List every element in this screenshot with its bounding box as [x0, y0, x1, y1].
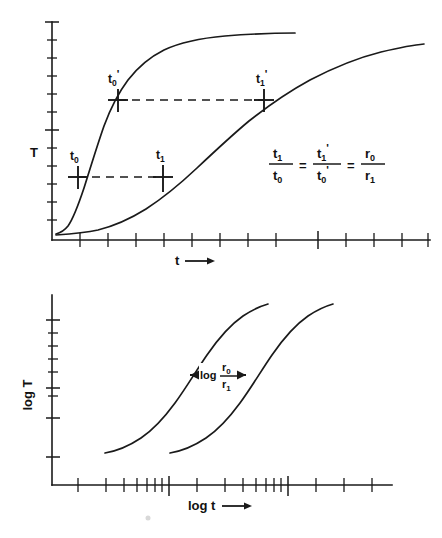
lower-axes	[52, 295, 392, 485]
shift-arrowhead-right	[237, 371, 246, 380]
page-speck	[146, 516, 151, 521]
log-shift-annotation: log r0 r1	[190, 361, 246, 393]
equation-term3-numerator: r0	[365, 146, 375, 163]
upper-chart-panel: t0 t1 t0' t1' T t t1 t0 =	[0, 0, 442, 270]
lower-x-ticks	[78, 476, 372, 496]
upper-curve-fast	[56, 33, 295, 234]
equation-block: t1 t0 = t1' t0' = r0 r1	[269, 142, 385, 185]
lower-x-axis-label-group: log t	[188, 498, 252, 513]
equation-equals-2: =	[347, 158, 355, 173]
label-t0: t0	[70, 149, 79, 165]
equation-term1-numerator: t1	[273, 146, 282, 163]
equation-term3-denominator: r1	[365, 168, 375, 185]
label-t0-prime: t0'	[108, 68, 120, 88]
equation-term2-denominator: t0'	[317, 164, 329, 185]
upper-y-axis-label: T	[30, 145, 38, 160]
lower-curve-left	[105, 304, 268, 453]
marker-t1-prime	[254, 89, 274, 112]
equation-equals-1: =	[299, 158, 307, 173]
lower-curve-right	[170, 304, 333, 453]
x-axis-arrowhead	[207, 258, 215, 265]
figure-root: t0 t1 t0' t1' T t t1 t0 =	[0, 0, 442, 538]
lower-y-ticks	[46, 320, 60, 457]
equation-term2-numerator: t1'	[317, 142, 329, 163]
lower-x-axis-arrowhead	[244, 503, 252, 510]
label-t1: t1	[156, 148, 165, 164]
lower-chart-panel: log r0 r1 log T log t	[0, 270, 442, 538]
marker-t1	[153, 165, 173, 192]
lower-y-axis-label: log T	[20, 379, 35, 410]
annotation-log-prefix: log	[200, 369, 217, 381]
equation-term1-denominator: t0	[273, 168, 282, 185]
label-t1-prime: t1'	[256, 68, 268, 88]
upper-x-axis-label: t	[175, 253, 180, 268]
lower-x-axis-label: log t	[188, 498, 216, 513]
upper-x-axis-label-group: t	[175, 253, 215, 268]
